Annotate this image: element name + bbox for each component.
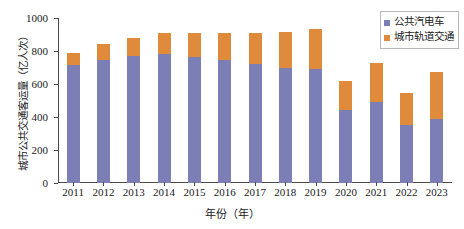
y-tick-label: 200 <box>32 144 49 156</box>
bar-segment-bus <box>370 102 383 183</box>
x-tick-label: 2018 <box>274 186 296 198</box>
x-tick-label: 2019 <box>305 186 327 198</box>
bar-segment-bus <box>218 60 231 183</box>
bar-segment-bus <box>97 60 110 183</box>
bar-group <box>370 63 383 183</box>
x-tick-label: 2013 <box>123 186 145 198</box>
bar-segment-bus <box>430 119 443 183</box>
x-tick <box>285 182 286 186</box>
bar-segment-rail <box>158 33 171 54</box>
bar-segment-bus <box>249 64 262 183</box>
x-tick-label: 2014 <box>153 186 175 198</box>
x-tick-label: 2020 <box>335 186 357 198</box>
bar-segment-rail <box>97 44 110 60</box>
x-axis-title: 年份（年） <box>0 205 464 221</box>
x-tick-label: 2017 <box>244 186 266 198</box>
bar-segment-bus <box>400 125 413 183</box>
bar-group <box>309 29 322 183</box>
chart-legend: 公共汽电车 城市轨道交通 <box>380 11 459 49</box>
bar-segment-rail <box>400 93 413 125</box>
bar-group <box>400 93 413 183</box>
x-tick <box>407 182 408 186</box>
bar-segment-rail <box>279 32 292 67</box>
x-tick <box>255 182 256 186</box>
bar-segment-bus <box>339 110 352 183</box>
bar-segment-rail <box>218 33 231 60</box>
legend-label-rail: 城市轨道交通 <box>394 32 454 43</box>
bar-segment-bus <box>127 56 140 183</box>
y-tick-label: 400 <box>32 111 49 123</box>
x-tick-label: 2023 <box>426 186 448 198</box>
bar-segment-rail <box>67 53 80 65</box>
y-tick-label: 600 <box>32 78 49 90</box>
x-tick-label: 2022 <box>396 186 418 198</box>
x-tick <box>316 182 317 186</box>
bar-group <box>188 33 201 183</box>
y-axis-title: 城市公共交通客运量（亿人次） <box>15 16 30 186</box>
bar-segment-bus <box>188 57 201 183</box>
legend-swatch-rail <box>384 35 390 41</box>
x-tick <box>73 182 74 186</box>
bar-segment-rail <box>339 81 352 110</box>
bar-segment-bus <box>67 65 80 183</box>
bar-segment-bus <box>309 69 322 183</box>
bar-group <box>339 81 352 183</box>
bar-group <box>158 33 171 183</box>
x-tick <box>194 182 195 186</box>
x-tick <box>103 182 104 186</box>
bar-group <box>430 72 443 183</box>
bar-group <box>249 33 262 183</box>
bar-segment-bus <box>158 54 171 183</box>
x-tick <box>437 182 438 186</box>
x-tick <box>376 182 377 186</box>
bar-group <box>279 32 292 183</box>
x-tick-label: 2011 <box>62 186 84 198</box>
bar-group <box>127 38 140 183</box>
y-tick-label: 800 <box>32 45 49 57</box>
bar-segment-rail <box>370 63 383 103</box>
y-tick-label: 1000 <box>26 12 48 24</box>
x-tick <box>225 182 226 186</box>
stacked-bar-chart: 城市公共交通客运量（亿人次） 02004006008001000 2011201… <box>0 0 464 229</box>
legend-swatch-bus <box>384 20 390 26</box>
bar-group <box>97 44 110 183</box>
bar-segment-rail <box>127 38 140 56</box>
legend-label-bus: 公共汽电车 <box>394 17 444 28</box>
bar-segment-rail <box>188 33 201 57</box>
bar-group <box>218 33 231 183</box>
bar-segment-bus <box>279 68 292 184</box>
x-tick-label: 2016 <box>214 186 236 198</box>
y-tick-label: 0 <box>43 177 49 189</box>
bar-segment-rail <box>430 72 443 120</box>
x-tick <box>134 182 135 186</box>
x-tick-label: 2012 <box>92 186 114 198</box>
x-tick <box>164 182 165 186</box>
legend-item-bus: 公共汽电车 <box>384 15 454 30</box>
bar-segment-rail <box>309 29 322 69</box>
bar-segment-rail <box>249 33 262 64</box>
legend-item-rail: 城市轨道交通 <box>384 30 454 45</box>
x-tick <box>346 182 347 186</box>
x-tick-label: 2021 <box>365 186 387 198</box>
y-tick: 0 <box>54 183 58 184</box>
bar-group <box>67 53 80 183</box>
x-tick-label: 2015 <box>183 186 205 198</box>
x-axis-tick-labels: 2011201220132014201520162017201820192020… <box>58 186 452 202</box>
